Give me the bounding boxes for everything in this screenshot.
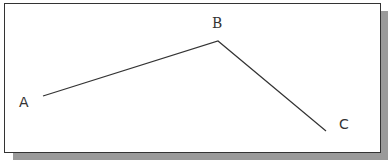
point-label-a: A — [19, 95, 29, 109]
point-label-c: C — [339, 117, 349, 131]
point-label-b: B — [212, 16, 222, 30]
polyline-abc — [0, 0, 388, 164]
